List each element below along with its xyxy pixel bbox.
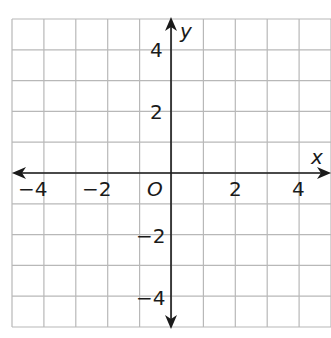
x-tick-label: −2 bbox=[82, 177, 111, 201]
y-tick-label: 2 bbox=[150, 100, 163, 124]
y-axis-label: y bbox=[179, 19, 193, 43]
x-tick-label: −4 bbox=[18, 177, 47, 201]
y-tick-label: 4 bbox=[150, 38, 163, 62]
axes bbox=[12, 17, 331, 329]
y-tick-label: −2 bbox=[136, 224, 165, 248]
origin-label: O bbox=[147, 177, 163, 201]
x-tick-label: 4 bbox=[292, 177, 305, 201]
x-axis-label: x bbox=[310, 145, 323, 169]
coordinate-plane: x y O −4 −2 2 4 4 2 −2 −4 bbox=[0, 0, 331, 338]
x-tick-label: 2 bbox=[229, 177, 242, 201]
y-tick-label: −4 bbox=[136, 286, 165, 310]
